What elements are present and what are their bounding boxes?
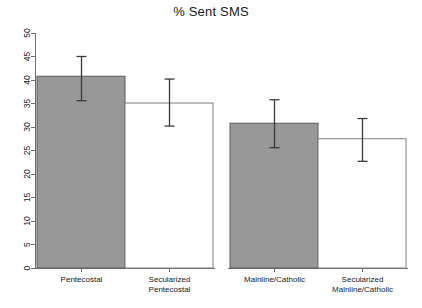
x-tick-label: Pentecostal bbox=[149, 285, 191, 294]
y-tick-label: 15 bbox=[22, 193, 32, 203]
x-tick-label: Pentecostal bbox=[61, 275, 103, 284]
y-tick-label: 20 bbox=[22, 169, 32, 179]
y-tick-label: 0 bbox=[22, 265, 32, 270]
y-tick-label: 5 bbox=[22, 242, 32, 247]
y-tick-label: 10 bbox=[22, 216, 32, 226]
y-tick-label: 45 bbox=[22, 52, 32, 62]
chart-container: % Sent SMS 05101520253035404550 Pentecos… bbox=[0, 0, 422, 308]
bar bbox=[125, 103, 213, 268]
y-tick-label: 35 bbox=[22, 99, 32, 109]
x-tick-labels: PentecostalSecularizedPentecostalMainlin… bbox=[61, 275, 393, 294]
bars-layer bbox=[37, 76, 406, 268]
x-tick-label: Mainline/Catholic bbox=[244, 275, 305, 284]
x-tick-label: Secularized bbox=[342, 275, 384, 284]
chart-plot-area: 05101520253035404550 PentecostalSeculari… bbox=[0, 0, 422, 308]
y-axis: 05101520253035404550 bbox=[22, 28, 35, 270]
x-axis bbox=[35, 268, 408, 272]
bar bbox=[37, 76, 125, 268]
y-tick-label: 25 bbox=[22, 146, 32, 156]
y-tick-label: 40 bbox=[22, 75, 32, 85]
y-tick-label: 50 bbox=[22, 28, 32, 38]
y-tick-label: 30 bbox=[22, 122, 32, 132]
x-tick-label: Mainline/Catholic bbox=[332, 285, 393, 294]
x-tick-label: Secularized bbox=[149, 275, 191, 284]
